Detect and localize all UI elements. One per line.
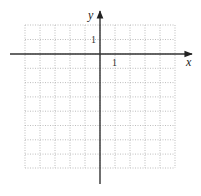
x-axis-label: x <box>185 55 192 69</box>
x-tick-label: 1 <box>112 57 117 68</box>
y-axis-label: y <box>87 8 94 22</box>
y-tick-label: 1 <box>91 34 96 45</box>
coordinate-plane: x y 1 1 <box>0 0 201 196</box>
